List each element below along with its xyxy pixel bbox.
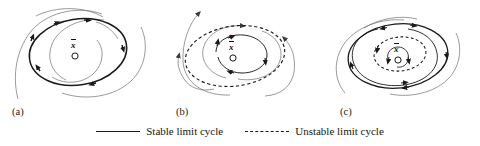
legend: Stable limit cycle Unstable limit cycle (0, 126, 480, 137)
panel-b-inner-solid-spiral (216, 35, 267, 73)
panel-b-inner-trajectories (203, 26, 281, 80)
panel-a-inner-trajectories (50, 19, 118, 82)
panel-label-b: (b) (176, 107, 188, 118)
panel-a-fixed-point-label: x (71, 39, 76, 50)
panel-c-stable-limit-cycle (345, 19, 451, 93)
legend-swatch-dashed-line-icon (245, 131, 289, 132)
phase-portrait-canvas (0, 0, 480, 146)
panel-c-outer-trajectories (336, 17, 459, 95)
limit-cycle-figure: x x x (a) (b) (c) Stable limit cycle Uns… (0, 0, 480, 146)
panel-c-unstable-limit-cycle (372, 34, 427, 73)
legend-swatch-solid-line-icon (96, 131, 140, 132)
legend-label-stable: Stable limit cycle (146, 126, 223, 137)
panel-a-fixed-point-symbol: x (71, 40, 76, 50)
panel-b-graphics (178, 13, 294, 96)
panel-c-fixed-point-symbol: x (394, 44, 399, 54)
panel-b-fixed-point-label: x (229, 41, 234, 52)
panel-c-graphics (336, 17, 459, 95)
panel-c-fixed-point-marker (395, 57, 401, 63)
panel-a-fixed-point-marker (72, 53, 78, 59)
panel-a-graphics (15, 9, 145, 99)
panel-c-fixed-point-label: x (394, 43, 399, 54)
legend-label-unstable: Unstable limit cycle (295, 126, 384, 137)
panel-b-fixed-point-symbol: x (229, 42, 234, 52)
panel-c-inner-trajectories (377, 46, 409, 67)
panel-label-c: (c) (340, 107, 352, 118)
legend-item-stable: Stable limit cycle (96, 126, 223, 137)
panel-label-a: (a) (12, 107, 24, 118)
legend-item-unstable: Unstable limit cycle (245, 126, 384, 137)
panel-a-stable-limit-cycle (24, 12, 131, 93)
panel-b-fixed-point-marker (230, 55, 236, 61)
